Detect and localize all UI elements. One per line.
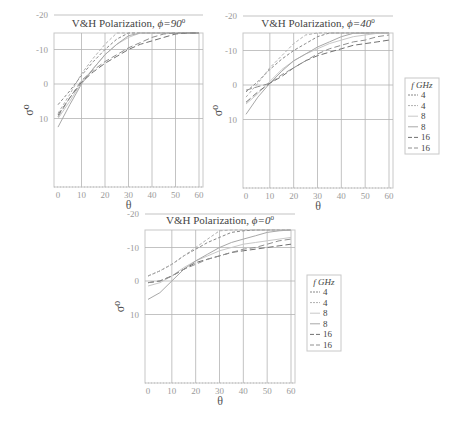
y-tick-label: -10 bbox=[127, 243, 139, 253]
legend-entry: 4 bbox=[421, 101, 426, 111]
legend-title: f GHz bbox=[411, 80, 433, 90]
x-tick-label: 40 bbox=[148, 190, 158, 200]
y-tick-label: -10 bbox=[225, 46, 237, 56]
x-tick-label: 60 bbox=[287, 386, 297, 396]
legend-entry: 16 bbox=[323, 329, 333, 339]
y-tick-label: 10 bbox=[228, 115, 238, 125]
x-tick-label: 60 bbox=[385, 191, 395, 201]
y-tick-label: -20 bbox=[225, 11, 237, 21]
legend-entry: 8 bbox=[323, 319, 328, 329]
x-axis-label: θ bbox=[315, 199, 321, 213]
chart-panel-1: 0102030405060100-10-20θσ⁰V&H Polarizatio… bbox=[22, 10, 204, 212]
x-tick-label: 50 bbox=[361, 191, 371, 201]
x-tick-label: 50 bbox=[171, 190, 181, 200]
legend-entry: 4 bbox=[421, 90, 426, 100]
x-tick-label: 0 bbox=[56, 190, 61, 200]
x-tick-label: 40 bbox=[239, 386, 249, 396]
y-tick-label: 10 bbox=[39, 114, 49, 124]
x-tick-label: 60 bbox=[195, 190, 205, 200]
x-tick-label: 20 bbox=[191, 386, 201, 396]
y-tick-label: -20 bbox=[127, 209, 139, 219]
chart-title: V&H Polarization, ϕ=400 bbox=[261, 17, 375, 29]
legend-title: f GHz bbox=[313, 277, 335, 287]
y-axis-label: σ⁰ bbox=[211, 105, 225, 116]
legend-entry: 16 bbox=[421, 132, 431, 142]
y-axis-label: σ⁰ bbox=[22, 104, 36, 115]
plot-frame bbox=[145, 230, 295, 383]
figure: 0102030405060100-10-20θσ⁰V&H Polarizatio… bbox=[0, 0, 459, 424]
legend-entry: 8 bbox=[421, 111, 426, 121]
x-tick-label: 10 bbox=[167, 386, 177, 396]
y-tick-label: -10 bbox=[36, 45, 48, 55]
legend-entry: 4 bbox=[323, 287, 328, 297]
legend-entry: 16 bbox=[323, 340, 333, 350]
legend-entry: 8 bbox=[323, 308, 328, 318]
x-tick-label: 20 bbox=[101, 190, 111, 200]
x-tick-label: 50 bbox=[263, 386, 273, 396]
x-tick-label: 20 bbox=[289, 191, 299, 201]
legend-entry: 4 bbox=[323, 298, 328, 308]
chart-panel-3: 0102030405060100-10-20θσ⁰V&H Polarizatio… bbox=[113, 209, 341, 408]
y-tick-label: 10 bbox=[130, 310, 140, 320]
y-tick-label: 0 bbox=[233, 80, 238, 90]
y-axis-label: σ⁰ bbox=[113, 301, 127, 312]
x-tick-label: 10 bbox=[265, 191, 275, 201]
legend: f GHz44881616 bbox=[405, 78, 439, 154]
chart-title: V&H Polarization, ϕ=900 bbox=[72, 17, 186, 29]
chart-panel-2: 0102030405060100-10-20θσ⁰V&H Polarizatio… bbox=[211, 11, 439, 213]
figure-canvas: 0102030405060100-10-20θσ⁰V&H Polarizatio… bbox=[0, 0, 459, 424]
x-tick-label: 40 bbox=[337, 191, 347, 201]
legend-entry: 16 bbox=[421, 143, 431, 153]
legend-entry: 8 bbox=[421, 122, 426, 132]
x-tick-label: 0 bbox=[146, 386, 151, 396]
y-tick-label: -20 bbox=[36, 10, 48, 20]
x-axis-label: θ bbox=[217, 394, 223, 408]
y-tick-label: 0 bbox=[135, 276, 140, 286]
y-tick-label: 0 bbox=[44, 79, 49, 89]
x-tick-label: 0 bbox=[244, 191, 249, 201]
plot-frame bbox=[243, 33, 393, 188]
x-tick-label: 10 bbox=[77, 190, 87, 200]
chart-title: V&H Polarization, ϕ=00 bbox=[166, 214, 274, 226]
legend: f GHz44881616 bbox=[307, 275, 341, 351]
